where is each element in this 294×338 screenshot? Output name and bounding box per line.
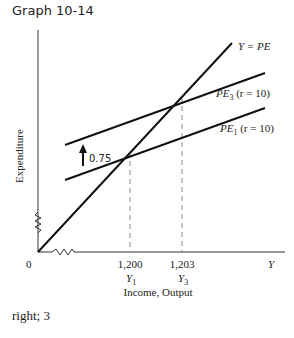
x-axis-label: Income, Output	[123, 286, 192, 298]
origin-label: 0	[26, 258, 32, 270]
tick-y1-symbol: Y1	[126, 272, 136, 287]
answer-text: right; 3	[12, 308, 50, 324]
tick-y3-symbol: Y3	[178, 272, 188, 287]
series-pe1	[65, 108, 265, 180]
x-axis-symbol: Y	[268, 258, 276, 270]
label-pe3: PE3 (r = 10)	[215, 87, 270, 102]
tick-1200: 1,200	[118, 258, 143, 270]
series-y-equals-pe	[38, 43, 232, 252]
label-y-equals-pe: Y = PE	[238, 40, 271, 52]
label-pe1: PE1 (r = 10)	[219, 122, 274, 137]
y-axis-label: Expenditure	[13, 129, 25, 183]
arrow-head-icon	[79, 144, 87, 153]
shift-label: 0.75	[89, 153, 111, 164]
tick-1203: 1,203	[170, 258, 195, 270]
chart-canvas: 0.75 Y = PE PE3 (r = 10) PE1 (r = 10) Ex…	[0, 0, 294, 338]
